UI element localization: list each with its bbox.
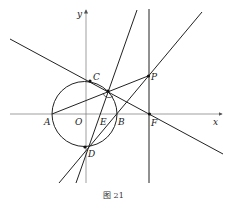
geometry-figure: y x O A E B F C P D 图 21 [0, 0, 230, 206]
line-de [76, 10, 137, 183]
line-ap [52, 76, 148, 114]
point-d-dot [83, 145, 86, 148]
label-x-axis: x [213, 117, 218, 127]
figure-caption: 图 21 [103, 191, 124, 200]
label-c: C [93, 72, 100, 82]
line-cf [10, 39, 223, 154]
label-o: O [75, 117, 83, 127]
point-intersection-dot [106, 89, 109, 92]
label-b: B [117, 117, 125, 127]
point-f-dot [148, 112, 151, 115]
label-a: A [43, 117, 51, 127]
label-y-axis: y [76, 9, 83, 19]
line-dp [59, 12, 202, 183]
point-c-dot [88, 79, 91, 82]
label-p: P [150, 72, 158, 82]
label-d: D [87, 149, 95, 159]
label-f: F [150, 118, 158, 128]
label-e: E [99, 117, 107, 127]
point-p-dot [147, 74, 150, 77]
